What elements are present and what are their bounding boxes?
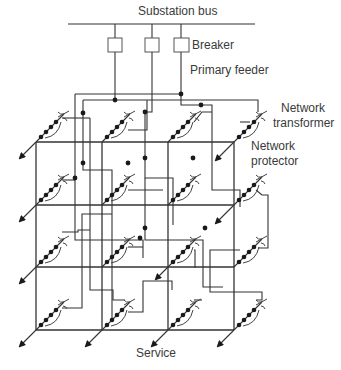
network-transformer-label-2: transformer xyxy=(273,116,334,130)
breaker-1 xyxy=(108,38,122,52)
breaker-3 xyxy=(174,38,189,52)
breaker-2 xyxy=(145,38,159,52)
network-transformer-label-1: Network xyxy=(281,101,326,115)
network-protector-label-1: Network xyxy=(251,139,296,153)
breakers xyxy=(108,24,189,52)
network-diagram: Substation bus Breaker Primary feeder Ne… xyxy=(0,0,341,370)
breaker-label: Breaker xyxy=(192,38,234,52)
network-protector-label-2: protector xyxy=(251,154,298,168)
substation-bus-label: Substation bus xyxy=(138,4,217,18)
feeder-junctions xyxy=(73,92,208,241)
primary-feeder-label: Primary feeder xyxy=(190,63,269,77)
service-label: Service xyxy=(136,346,176,360)
primary-feeders xyxy=(62,52,268,320)
